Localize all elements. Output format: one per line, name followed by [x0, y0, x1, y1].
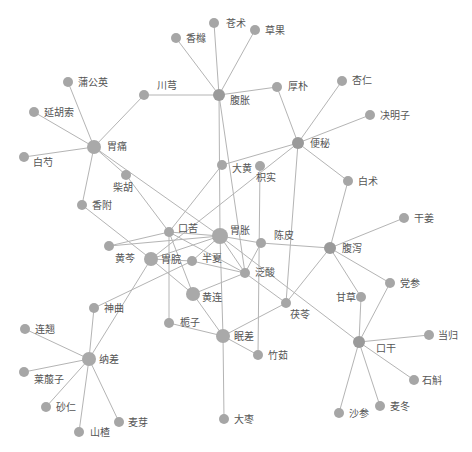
node-nacha[interactable]	[82, 352, 96, 366]
edge-zhishi-zhuru	[258, 166, 260, 355]
node-chaihu[interactable]	[121, 170, 131, 180]
edge-fuzhang-fansuan	[219, 95, 245, 273]
node-caoguo[interactable]	[250, 25, 260, 35]
node-label-juemingzi: 决明子	[380, 110, 410, 121]
edge-xiangfu-weiwan	[82, 205, 151, 259]
node-huangqin[interactable]	[104, 241, 114, 251]
edge-kougan-danggui	[359, 335, 429, 342]
node-label-chaihu: 柴胡	[113, 181, 133, 193]
node-label-banxia: 半夏	[202, 252, 222, 264]
node-label-sharen: 砂仁	[56, 401, 76, 413]
node-pugongying[interactable]	[63, 77, 73, 87]
node-kouku[interactable]	[164, 227, 174, 237]
node-ganjiang[interactable]	[399, 213, 409, 223]
node-label-fuxie: 腹泻	[342, 242, 362, 254]
node-label-kouku: 口苦	[178, 222, 198, 234]
node-xiangyuan[interactable]	[171, 33, 181, 43]
node-label-bianmi: 便秘	[310, 137, 330, 149]
node-fuling[interactable]	[281, 298, 291, 308]
node-dahuang[interactable]	[217, 160, 227, 170]
node-label-dangshen: 党参	[400, 277, 420, 289]
node-dazao[interactable]	[219, 414, 229, 424]
node-baizhu[interactable]	[343, 176, 353, 186]
node-label-baizhu: 白术	[358, 175, 378, 187]
edge-fuzhang-xiangyuan	[176, 38, 219, 95]
node-label-caoguo: 草果	[265, 25, 285, 36]
node-maidong[interactable]	[375, 401, 385, 411]
node-lianqiao[interactable]	[20, 324, 30, 334]
node-label-yanhusuo: 延胡索	[44, 106, 74, 118]
node-label-shenqu: 神曲	[104, 302, 124, 314]
node-label-zhuru: 竹茹	[268, 349, 288, 361]
node-sharen[interactable]	[41, 402, 51, 412]
node-weizhang[interactable]	[212, 228, 228, 244]
node-label-fuzhang: 腹胀	[230, 94, 250, 106]
node-label-chenpi: 陈皮	[274, 229, 294, 241]
node-label-maidong: 麦冬	[390, 400, 410, 412]
edge-chuanxiong-weitong	[94, 95, 144, 147]
node-fansuan[interactable]	[240, 268, 250, 278]
edge-miancha-dazao	[223, 336, 224, 419]
node-chuanxiong[interactable]	[139, 90, 149, 100]
node-label-zhishi: 枳实	[256, 171, 276, 183]
edge-gancao-kougan	[359, 297, 361, 342]
node-cangzhu[interactable]	[209, 18, 219, 28]
edge-miancha-fuling	[223, 303, 286, 336]
node-shihu[interactable]	[409, 375, 419, 385]
edge-weitong-baishao	[24, 147, 94, 157]
node-label-weizhang: 胃胀	[230, 225, 250, 236]
node-label-xiangyuan: 香橼	[186, 32, 206, 44]
node-fuzhang[interactable]	[213, 89, 225, 101]
node-dangshen[interactable]	[385, 278, 395, 288]
node-laifuzi[interactable]	[19, 367, 29, 377]
node-kougan[interactable]	[353, 336, 365, 348]
node-label-houpo: 厚朴	[288, 80, 308, 92]
node-zhuru[interactable]	[253, 350, 263, 360]
node-shashen[interactable]	[334, 408, 344, 418]
node-banxia[interactable]	[187, 256, 197, 266]
node-zhizi[interactable]	[164, 318, 174, 328]
node-label-cangzhu: 苍术	[226, 17, 246, 29]
node-label-gancao: 甘草	[336, 291, 356, 303]
node-gancao[interactable]	[356, 292, 366, 302]
edge-fuxie-fuling	[286, 248, 330, 303]
node-yanhusuo[interactable]	[29, 107, 39, 117]
edge-fuzhang-cangzhu	[214, 23, 219, 95]
edge-fuxie-gancao	[330, 248, 361, 297]
node-label-maiya: 麦芽	[128, 416, 148, 428]
node-label-huangqin: 黄芩	[115, 252, 135, 264]
network-diagram: 苍术草果香橼腹胀厚朴杏仁决明子便秘川芎蒲公英延胡索胃痛白芍柴胡香附大黄枳实白术干…	[0, 0, 472, 452]
node-label-lianqiao: 连翘	[35, 323, 55, 335]
node-xingren[interactable]	[337, 76, 347, 86]
node-label-danggui: 当归	[438, 329, 458, 341]
node-weiwan[interactable]	[144, 252, 158, 266]
node-shanzha[interactable]	[74, 427, 84, 437]
node-maiya[interactable]	[114, 417, 124, 427]
node-label-fansuan: 泛酸	[255, 266, 275, 278]
node-zhishi[interactable]	[255, 161, 265, 171]
node-bianmi[interactable]	[292, 137, 304, 149]
edge-bianmi-fuling	[286, 143, 298, 303]
edge-nacha-maiya	[89, 359, 119, 422]
node-label-miancha: 眠差	[234, 330, 254, 342]
node-fuxie[interactable]	[324, 242, 336, 254]
node-chenpi[interactable]	[256, 238, 266, 248]
node-xiangfu[interactable]	[77, 200, 87, 210]
edge-dahuang-kouku	[169, 165, 222, 232]
node-juemingzi[interactable]	[365, 110, 375, 120]
node-baishao[interactable]	[19, 152, 29, 162]
node-weitong[interactable]	[87, 140, 101, 154]
edge-kouku-huangqin	[109, 232, 169, 246]
node-houpo[interactable]	[272, 82, 282, 92]
node-shenqu[interactable]	[89, 303, 99, 313]
edge-nacha-shanzha	[79, 359, 89, 432]
node-label-xingren: 杏仁	[352, 74, 372, 86]
edge-dangshen-kougan	[359, 283, 390, 342]
node-label-laifuzi: 莱菔子	[34, 374, 64, 385]
node-miancha[interactable]	[216, 329, 230, 343]
node-danggui[interactable]	[424, 330, 434, 340]
node-label-nacha: 纳差	[99, 353, 119, 365]
node-label-weiwan: 胃脘	[161, 253, 181, 265]
edge-weitong-xiangfu	[82, 147, 94, 205]
node-huanglian[interactable]	[186, 287, 200, 301]
